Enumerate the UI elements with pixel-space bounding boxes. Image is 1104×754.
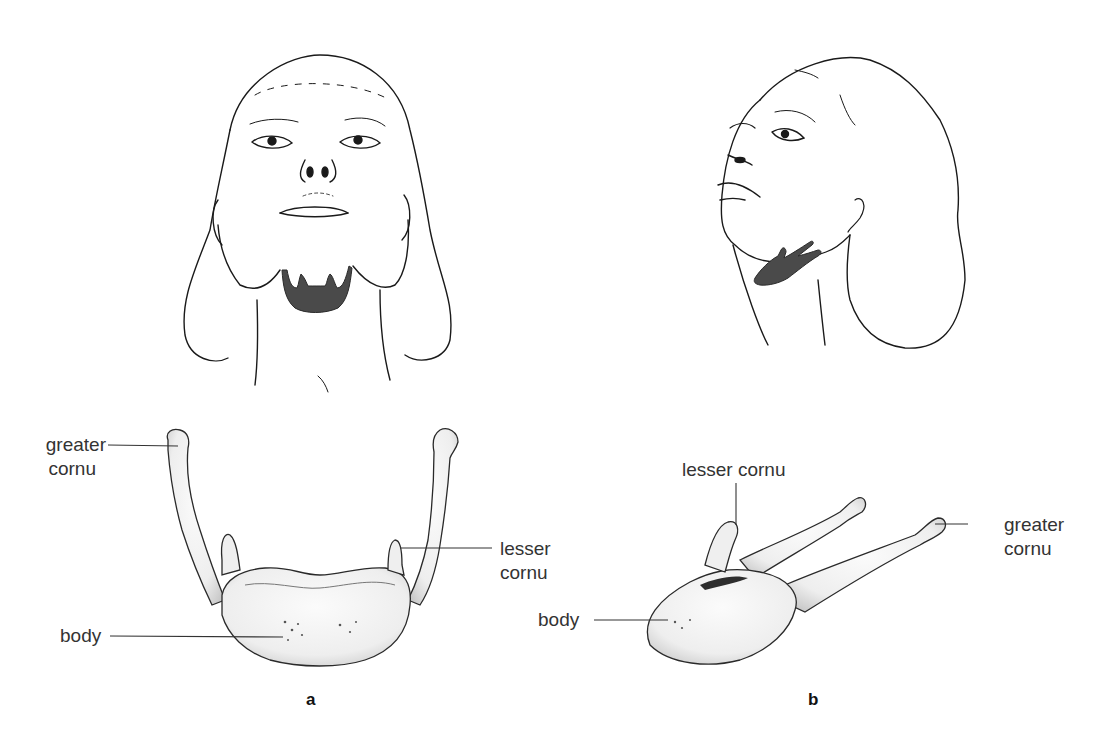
label-body-a: body [60,624,101,648]
label-lesser-cornu-a-line2: cornu [500,561,551,585]
label-body-b: body [538,608,579,632]
label-lesser-cornu-a: lesser cornu [500,537,551,585]
hyoid-bone-front [167,429,458,666]
hyoid-highlight-front [282,266,352,313]
face-front-illustration [184,55,451,392]
hyoid-highlight-tilted [754,241,821,285]
face-tilted-illustration [718,58,965,348]
label-greater-cornu-a-line2: cornu [40,457,106,481]
label-greater-cornu-b-line2: cornu [1004,537,1064,561]
label-greater-cornu-b-line1: greater [1004,513,1064,537]
label-lesser-cornu-b: lesser cornu [682,458,786,482]
label-lesser-cornu-a-line1: lesser [500,537,551,561]
hyoid-bone-tilted [647,498,945,664]
label-greater-cornu-a-line1: greater [40,433,106,457]
label-greater-cornu-b: greater cornu [1004,513,1064,561]
anatomy-figure [0,0,1104,754]
panel-letter-b: b [808,690,818,710]
label-greater-cornu-a: greater cornu [40,433,106,481]
panel-letter-a: a [306,690,315,710]
